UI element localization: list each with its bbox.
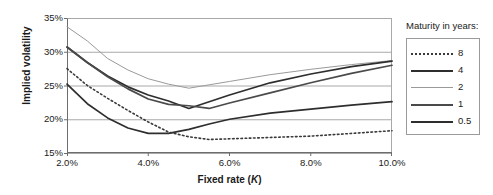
series-line-2 (67, 27, 392, 88)
legend-title: Maturity in years: (406, 20, 490, 31)
x-tick-label: 10.0% (366, 157, 418, 168)
x-tick-label: 8.0% (285, 157, 337, 168)
legend-item-0.5[interactable]: 0.5 (407, 112, 479, 129)
y-tick-label: 20% (23, 114, 63, 124)
x-tick-label: 6.0% (204, 157, 256, 168)
x-tick-label: 2.0% (41, 157, 93, 168)
legend: Maturity in years: 84210.5 (406, 20, 490, 135)
legend-item-1[interactable]: 1 (407, 95, 479, 112)
series-line-0.5 (67, 84, 392, 133)
x-axis-title-suffix: ) (258, 174, 261, 185)
legend-label-4: 4 (458, 64, 474, 75)
plot-area (67, 18, 392, 153)
legend-swatch-1 (411, 99, 453, 109)
x-axis-title: Fixed rate (K) (67, 174, 392, 185)
legend-swatch-0.5 (411, 116, 453, 126)
legend-item-8[interactable]: 8 (407, 44, 479, 61)
chart-figure: Implied volatility 15%20%25%30%35% 2.0%4… (0, 0, 493, 195)
legend-swatch-4 (411, 65, 453, 75)
series-line-1 (67, 47, 392, 108)
x-tick-label: 4.0% (122, 157, 174, 168)
series-line-8 (67, 69, 392, 140)
chart-svg (67, 18, 392, 153)
legend-label-8: 8 (458, 47, 474, 58)
series-line-4 (67, 47, 392, 108)
legend-box: 84210.5 (406, 38, 480, 135)
legend-item-2[interactable]: 2 (407, 78, 479, 95)
legend-label-1: 1 (458, 98, 474, 109)
legend-swatch-8 (411, 48, 453, 58)
y-tick-label: 30% (23, 47, 63, 57)
y-tick-label: 35% (23, 13, 63, 23)
x-axis-title-prefix: Fixed rate ( (198, 174, 251, 185)
y-tick-label: 25% (23, 81, 63, 91)
legend-label-0.5: 0.5 (458, 115, 474, 126)
legend-item-4[interactable]: 4 (407, 61, 479, 78)
legend-swatch-2 (411, 82, 453, 92)
legend-label-2: 2 (458, 81, 474, 92)
